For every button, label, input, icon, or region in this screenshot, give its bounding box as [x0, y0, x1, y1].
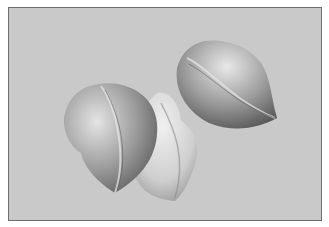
petals-illustration [9, 8, 322, 221]
image-frame [8, 7, 322, 221]
upper-right-petal [177, 40, 277, 128]
